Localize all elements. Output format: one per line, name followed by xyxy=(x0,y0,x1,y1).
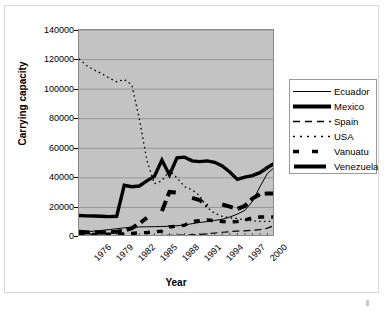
y-tick-label-140000: 140000 xyxy=(44,26,74,35)
screenshot-root: Carrying capacity 0 20000 40000 60000 80… xyxy=(0,0,391,311)
legend-item-ecuador[interactable]: Ecuador xyxy=(290,84,378,99)
x-tick-label-1994: 1994 xyxy=(224,242,245,263)
legend-label-vanuatu: Vanuatu xyxy=(334,146,369,157)
y-tick-label-100000: 100000 xyxy=(44,85,74,94)
x-tick-label-1979: 1979 xyxy=(114,242,135,263)
legend-label-usa: USA xyxy=(334,131,354,142)
legend-key-venezuela xyxy=(292,159,332,174)
legend-key-mexico xyxy=(292,99,332,114)
x-tick-label-2000: 2000 xyxy=(268,242,289,263)
legend-item-vanuatu[interactable]: Vanuatu xyxy=(290,144,378,159)
x-tick-label-1988: 1988 xyxy=(180,242,201,263)
page-corner-artifact xyxy=(366,300,369,306)
x-tick-label-1991: 1991 xyxy=(202,242,223,263)
legend-key-ecuador xyxy=(292,84,332,99)
legend-item-spain[interactable]: Spain xyxy=(290,114,378,129)
legend-label-spain: Spain xyxy=(334,116,358,127)
legend-key-spain xyxy=(292,114,332,129)
legend-label-mexico: Mexico xyxy=(334,101,364,112)
x-tick-label-1982: 1982 xyxy=(136,242,157,263)
y-tick-label-80000: 80000 xyxy=(49,114,74,123)
legend-item-usa[interactable]: USA xyxy=(290,129,378,144)
y-axis-labels: 0 20000 40000 60000 80000 100000 120000 … xyxy=(12,0,74,240)
legend-label-venezuela: Venezuela xyxy=(334,161,378,172)
x-axis-labels: 1976 1979 1982 1985 1988 1991 1994 1997 … xyxy=(0,236,391,276)
legend-key-usa xyxy=(292,129,332,144)
legend-key-vanuatu xyxy=(292,144,332,159)
chart-legend: Ecuador Mexico Spain USA Vanuatu Venezue… xyxy=(289,79,377,174)
x-tick-label-1976: 1976 xyxy=(92,242,113,263)
legend-item-venezuela[interactable]: Venezuela xyxy=(290,159,378,174)
line-chart: Carrying capacity 0 20000 40000 60000 80… xyxy=(0,0,391,311)
y-tick-label-40000: 40000 xyxy=(49,173,74,182)
y-tick-label-60000: 60000 xyxy=(49,144,74,153)
legend-item-mexico[interactable]: Mexico xyxy=(290,99,378,114)
plot-area xyxy=(78,29,274,236)
y-tick-label-120000: 120000 xyxy=(44,55,74,64)
x-tick-label-1997: 1997 xyxy=(246,242,267,263)
y-tick-label-20000: 20000 xyxy=(49,203,74,212)
x-tick-label-1985: 1985 xyxy=(158,242,179,263)
legend-label-ecuador: Ecuador xyxy=(334,86,369,97)
x-axis-title: Year xyxy=(78,277,274,288)
